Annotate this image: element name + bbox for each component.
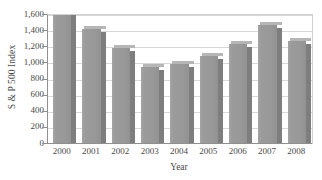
y-axis-tick-mark (42, 79, 47, 80)
y-axis-tick-label: 0 (14, 139, 44, 148)
bar-front-face (229, 44, 247, 144)
y-axis-tick-mark (42, 111, 47, 112)
x-axis-tick-label-2000: 2000 (47, 146, 76, 157)
bar-2001[interactable] (82, 29, 100, 144)
y-axis-tick-mark (42, 62, 47, 63)
x-axis-line (46, 143, 312, 144)
bar-front-face (53, 14, 71, 144)
bar-side-face (71, 14, 76, 144)
bar-front-face (200, 56, 218, 144)
bar-top-face (202, 53, 223, 56)
x-axis-tick-label-2006: 2006 (223, 146, 252, 157)
bar-side-face (277, 28, 282, 144)
bar-2004[interactable] (170, 64, 188, 144)
bar-2007[interactable] (258, 25, 276, 144)
bar-front-face (141, 67, 159, 144)
bar-top-face (231, 41, 252, 44)
x-axis-tick-label-2002: 2002 (106, 146, 135, 157)
x-axis-tick-label-2008: 2008 (282, 146, 311, 157)
sp500-bar-chart: S & P 500 Index 02004006008001,0001,2001… (0, 0, 322, 180)
y-axis-tick-label: 800 (14, 74, 44, 83)
bar-top-face (260, 22, 281, 25)
y-axis-tick-labels: 02004006008001,0001,2001,4001,600 (14, 8, 44, 148)
bar-front-face (112, 48, 130, 144)
bar-side-face (130, 51, 135, 144)
bar-2000[interactable] (53, 14, 71, 144)
x-axis-tick-labels: 200020012002200320042005200620072008 (47, 146, 311, 160)
bar-top-face (290, 38, 311, 41)
y-axis-tick-label: 1,000 (14, 58, 44, 67)
y-axis-tick-mark (42, 127, 47, 128)
x-axis-tick-label-2005: 2005 (194, 146, 223, 157)
y-axis-tick-mark (42, 46, 47, 47)
x-axis-tick-label-2007: 2007 (252, 146, 281, 157)
bar-side-face (189, 67, 194, 144)
gridline (48, 15, 312, 16)
y-axis-tick-label: 400 (14, 106, 44, 115)
x-axis-title: Year (47, 162, 311, 172)
bar-top-face (143, 64, 164, 67)
y-axis-tick-mark (42, 143, 47, 144)
y-axis-tick-label: 600 (14, 90, 44, 99)
bar-2002[interactable] (112, 48, 130, 144)
bar-front-face (170, 64, 188, 144)
bar-2005[interactable] (200, 56, 218, 144)
bar-front-face (288, 41, 306, 144)
x-axis-tick-label-2004: 2004 (164, 146, 193, 157)
bar-2006[interactable] (229, 44, 247, 144)
y-axis-tick-label: 1,200 (14, 42, 44, 51)
bar-top-face (114, 45, 135, 48)
plot-area (47, 14, 313, 144)
x-axis-tick-label-2001: 2001 (76, 146, 105, 157)
y-axis-tick-mark (42, 95, 47, 96)
y-axis-tick-mark (42, 14, 47, 15)
y-axis-tick-label: 1,600 (14, 10, 44, 19)
bar-side-face (306, 44, 311, 144)
bar-top-face (172, 61, 193, 64)
bar-side-face (101, 32, 106, 144)
bar-side-face (218, 59, 223, 144)
bar-front-face (258, 25, 276, 144)
bar-top-face (84, 26, 105, 29)
bar-front-face (82, 29, 100, 144)
bar-2003[interactable] (141, 67, 159, 144)
bar-side-face (247, 47, 252, 144)
bar-side-face (159, 70, 164, 144)
y-axis-tick-mark (42, 30, 47, 31)
x-axis-tick-label-2003: 2003 (135, 146, 164, 157)
y-axis-tick-label: 200 (14, 122, 44, 131)
y-axis-tick-label: 1,400 (14, 26, 44, 35)
bar-2008[interactable] (288, 41, 306, 144)
